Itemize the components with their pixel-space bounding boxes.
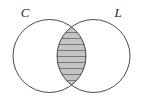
right-set-label: L bbox=[113, 5, 121, 20]
left-set-label: C bbox=[21, 5, 30, 20]
venn-diagram-canvas: C L bbox=[0, 0, 143, 105]
venn-diagram-figure: C L bbox=[0, 0, 143, 105]
